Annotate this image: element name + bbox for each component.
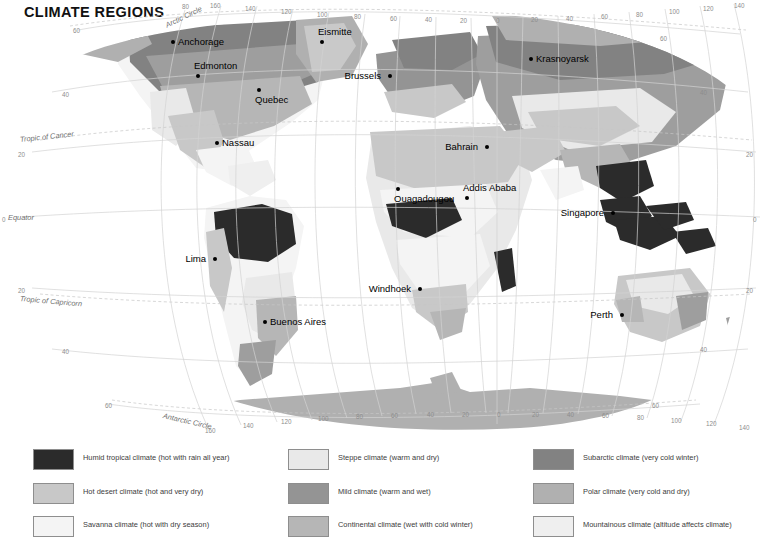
- city-dot-icon: [257, 88, 261, 92]
- longitude-tick-top-11: 40: [566, 16, 573, 22]
- city-dot-icon: [611, 211, 615, 215]
- longitude-tick-top-9: 0: [496, 18, 500, 24]
- latitude-tick-8: 40: [700, 90, 707, 96]
- longitude-tick-top-4: 100: [317, 12, 328, 18]
- longitude-tick-top-1: 160: [210, 3, 221, 9]
- legend-swatch: [533, 483, 574, 504]
- city-label: Edmonton: [194, 61, 237, 71]
- longitude-tick-top-13: 80: [636, 12, 643, 18]
- longitude-tick-top-14: 100: [669, 9, 680, 15]
- legend-swatch: [33, 483, 74, 504]
- city-dot-icon: [396, 187, 400, 191]
- latitude-tick-11: 20: [746, 288, 753, 294]
- legend-label: Subarctic climate (very cold winter): [583, 454, 698, 462]
- longitude-tick-bottom-10: 40: [567, 412, 574, 418]
- latitude-tick-7: 60: [660, 36, 667, 42]
- legend-swatch: [288, 483, 329, 504]
- legend-swatch: [288, 449, 329, 470]
- legend-swatch: [533, 449, 574, 470]
- climate-regions-map-page: CLIMATE REGIONS: [0, 0, 761, 538]
- legend-label: Mild climate (warm and wet): [338, 488, 431, 496]
- map-graphic: [0, 0, 761, 437]
- latitude-tick-3: 0: [2, 217, 6, 223]
- city-label: Singapore: [561, 208, 604, 218]
- longitude-tick-top-12: 60: [601, 14, 608, 20]
- legend-label: Humid tropical climate (hot with rain al…: [83, 454, 229, 462]
- climate-bands: [60, 14, 746, 432]
- city-dot-icon: [171, 40, 175, 44]
- legend-label: Savanna climate (hot with dry season): [83, 521, 209, 529]
- city-label: Buenos Aires: [270, 317, 326, 327]
- latitude-tick-9: 20: [746, 152, 753, 158]
- legend-swatch: [33, 516, 74, 537]
- longitude-tick-bottom-15: 140: [739, 425, 750, 431]
- legend-label: Steppe climate (warm and dry): [338, 454, 439, 462]
- legend-label: Hot desert climate (hot and very dry): [83, 488, 203, 496]
- longitude-tick-bottom-9: 20: [532, 412, 539, 418]
- city-dot-icon: [388, 74, 392, 78]
- city-dot-icon: [465, 196, 469, 200]
- latitude-tick-2: 20: [18, 152, 25, 158]
- city-label: Anchorage: [178, 37, 224, 47]
- longitude-tick-bottom-8: 0: [497, 412, 501, 418]
- longitude-tick-bottom-3: 100: [318, 416, 329, 422]
- city-dot-icon: [529, 57, 533, 61]
- longitude-tick-bottom-4: 80: [356, 414, 363, 420]
- longitude-tick-bottom-12: 80: [637, 415, 644, 421]
- latitude-tick-13: 60: [652, 403, 659, 409]
- city-dot-icon: [263, 320, 267, 324]
- latitude-line-label-equator: Equator: [8, 214, 34, 221]
- longitude-tick-top-8: 20: [460, 18, 467, 24]
- world-map: 8016014012010080604020020406080100120140…: [0, 0, 761, 437]
- city-label: Addis Ababa: [463, 183, 516, 193]
- city-dot-icon: [418, 287, 422, 291]
- longitude-tick-bottom-7: 20: [462, 412, 469, 418]
- latitude-tick-12: 40: [700, 347, 707, 353]
- city-label: Lima: [185, 254, 206, 264]
- city-label: Quebec: [255, 95, 288, 105]
- city-dot-icon: [215, 141, 219, 145]
- city-dot-icon: [213, 257, 217, 261]
- city-label: Brussels: [345, 71, 381, 81]
- longitude-tick-bottom-6: 40: [427, 412, 434, 418]
- city-label: Windhoek: [369, 284, 411, 294]
- city-dot-icon: [320, 40, 324, 44]
- legend-label: Polar climate (very cold and dry): [583, 488, 690, 496]
- longitude-tick-bottom-5: 60: [391, 413, 398, 419]
- longitude-tick-bottom-11: 60: [602, 413, 609, 419]
- latitude-tick-5: 40: [62, 349, 69, 355]
- longitude-tick-top-6: 60: [390, 16, 397, 22]
- city-label: Perth: [590, 310, 613, 320]
- city-dot-icon: [196, 74, 200, 78]
- longitude-tick-top-7: 40: [425, 17, 432, 23]
- city-label: Bahrain: [445, 142, 478, 152]
- city-label: Nassau: [222, 138, 254, 148]
- legend-column-2: Subarctic climate (very cold winter)Pola…: [533, 437, 761, 538]
- map-legend: Humid tropical climate (hot with rain al…: [0, 437, 761, 538]
- legend-swatch: [533, 516, 574, 537]
- city-label: Ouagadougou: [394, 194, 454, 204]
- legend-label: Mountainous climate (altitude affects cl…: [583, 521, 732, 529]
- longitude-tick-top-15: 120: [703, 6, 714, 12]
- legend-swatch: [33, 449, 74, 470]
- latitude-tick-1: 40: [62, 92, 69, 98]
- legend-column-0: Humid tropical climate (hot with rain al…: [33, 437, 281, 538]
- longitude-tick-top-3: 120: [281, 9, 292, 15]
- longitude-tick-top-5: 80: [354, 14, 361, 20]
- latitude-tick-10: 0: [753, 217, 757, 223]
- latitude-tick-6: 60: [105, 403, 112, 409]
- legend-label: Continental climate (wet with cold winte…: [338, 521, 473, 529]
- longitude-tick-top-10: 20: [531, 17, 538, 23]
- longitude-tick-bottom-1: 140: [243, 423, 254, 429]
- latitude-tick-0: 60: [73, 28, 80, 34]
- longitude-tick-bottom-2: 120: [281, 419, 292, 425]
- legend-column-1: Steppe climate (warm and dry)Mild climat…: [288, 437, 536, 538]
- city-dot-icon: [620, 313, 624, 317]
- city-dot-icon: [485, 145, 489, 149]
- longitude-tick-top-16: 140: [734, 3, 745, 9]
- longitude-tick-bottom-13: 100: [671, 418, 682, 424]
- city-label: Eismitte: [318, 27, 352, 37]
- longitude-tick-bottom-14: 120: [706, 421, 717, 427]
- legend-swatch: [288, 516, 329, 537]
- city-label: Krasnoyarsk: [536, 54, 589, 64]
